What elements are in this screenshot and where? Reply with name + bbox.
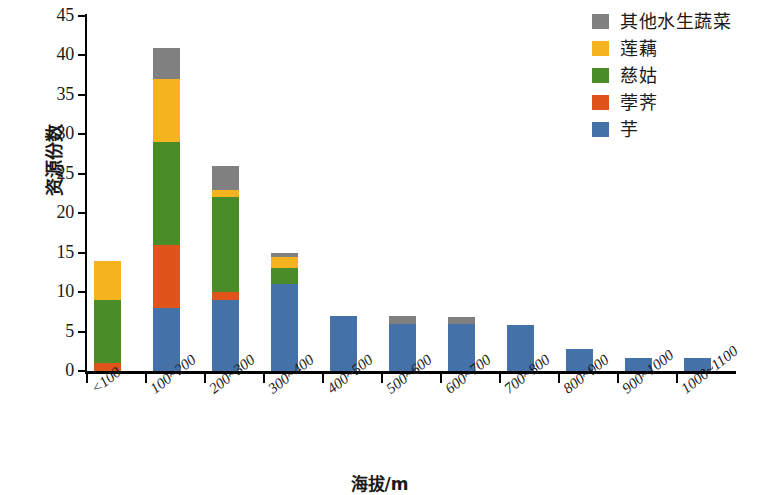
legend-swatch-icon: [592, 68, 609, 83]
x-axis-tick: [440, 374, 442, 383]
y-axis-tick-label: 15: [34, 243, 74, 261]
bar-segment: [212, 197, 239, 292]
bar-segment: [271, 253, 298, 257]
x-axis-tick: [617, 374, 619, 383]
legend-item-label: 芋: [620, 120, 639, 140]
y-axis-tick: [78, 173, 86, 175]
bar-segment: [153, 48, 180, 80]
x-axis-tick: [204, 374, 206, 383]
y-axis-tick-label: 10: [34, 282, 74, 300]
legend-item-2[interactable]: 莲藕: [592, 35, 759, 62]
legend-item-label: 其他水生蔬菜: [620, 12, 731, 32]
x-axis-tick: [499, 374, 501, 383]
y-axis-tick-label: 5: [34, 322, 74, 340]
y-axis-tick-label: 40: [34, 45, 74, 63]
chart-legend: 其他水生蔬菜莲藕慈姑荸荠芋: [592, 8, 759, 143]
x-axis-tick: [145, 374, 147, 383]
legend-swatch-icon: [592, 122, 609, 137]
legend-swatch-icon: [592, 14, 609, 29]
legend-item-label: 荸荠: [620, 93, 657, 113]
stacked-bar-chart: 051015202530354045 资源份数 <100100~200200~3…: [0, 0, 759, 495]
bar-3: [212, 166, 239, 371]
legend-swatch-icon: [592, 41, 609, 56]
x-axis-title: 海拔/m: [0, 470, 759, 495]
y-axis-tick-labels: 051015202530354045: [28, 0, 74, 495]
bar-segment: [212, 292, 239, 300]
bar-segment: [448, 317, 475, 323]
x-axis-tick: [322, 374, 324, 383]
legend-item-label: 慈姑: [620, 66, 657, 86]
y-axis-tick: [78, 331, 86, 333]
y-axis-tick-label: 45: [34, 6, 74, 24]
y-axis-title: 资源份数: [45, 100, 65, 220]
bar-segment: [271, 284, 298, 371]
bar-1: [94, 261, 121, 371]
bar-segment: [271, 257, 298, 269]
legend-item-5[interactable]: 芋: [592, 116, 759, 143]
bar-segment: [389, 316, 416, 324]
bar-segment: [153, 245, 180, 308]
x-axis-tick: [86, 374, 88, 383]
y-axis-tick: [78, 15, 86, 17]
bar-segment: [94, 300, 121, 363]
legend-swatch-icon: [592, 95, 609, 110]
x-axis-tick: [558, 374, 560, 383]
legend-item-1[interactable]: 其他水生蔬菜: [592, 8, 759, 35]
bar-segment: [271, 268, 298, 284]
x-axis-tick: [263, 374, 265, 383]
bar-segment: [153, 79, 180, 142]
bar-segment: [94, 261, 121, 300]
bar-segment: [212, 190, 239, 198]
legend-item-3[interactable]: 慈姑: [592, 62, 759, 89]
bar-4: [271, 253, 298, 371]
y-axis-tick: [78, 252, 86, 254]
bar-2: [153, 48, 180, 371]
x-axis-tick: [381, 374, 383, 383]
y-axis-tick: [78, 370, 86, 372]
y-axis-tick: [78, 133, 86, 135]
bar-segment: [153, 142, 180, 245]
x-axis-tick: [676, 374, 678, 383]
y-axis-tick-label: 0: [34, 361, 74, 379]
legend-item-4[interactable]: 荸荠: [592, 89, 759, 116]
y-axis-tick: [78, 212, 86, 214]
legend-item-label: 莲藕: [620, 39, 657, 59]
bar-segment: [212, 166, 239, 190]
y-axis-tick: [78, 94, 86, 96]
y-axis-tick: [78, 291, 86, 293]
y-axis-tick: [78, 54, 86, 56]
